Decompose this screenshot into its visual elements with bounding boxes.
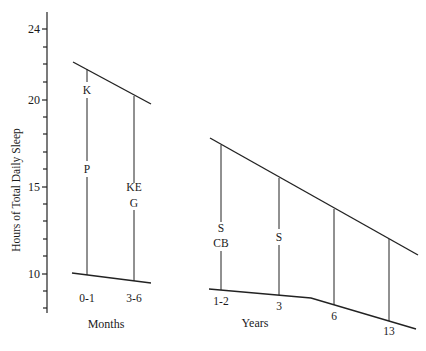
y-tick-20: 20	[28, 93, 40, 107]
y-tick-10: 10	[28, 267, 40, 281]
years-label: Years	[242, 316, 269, 330]
y-tick-15: 15	[28, 180, 40, 194]
months-label: Months	[88, 317, 125, 331]
annotation-s-2: S	[276, 231, 282, 243]
category-3: 3	[276, 300, 282, 312]
category-13: 13	[383, 325, 395, 337]
annotation-cb: CB	[213, 237, 229, 249]
annotation-s-1: S	[218, 222, 224, 234]
category-1-2: 1-2	[213, 295, 229, 307]
annotation-k: K	[83, 84, 92, 96]
category-0-1: 0-1	[79, 292, 95, 304]
years-panel	[209, 138, 418, 329]
annotation-ke: KE	[126, 181, 141, 193]
category-6: 6	[331, 310, 337, 322]
y-axis	[42, 12, 47, 313]
sleep-chart: 24 20 15 10 Hours of Total Daily Sleep K…	[0, 0, 426, 351]
annotation-p: P	[84, 163, 90, 175]
annotation-g: G	[130, 197, 138, 209]
y-axis-label: Hours of Total Daily Sleep	[10, 128, 23, 252]
category-3-6: 3-6	[126, 292, 142, 304]
y-tick-24: 24	[28, 22, 40, 36]
